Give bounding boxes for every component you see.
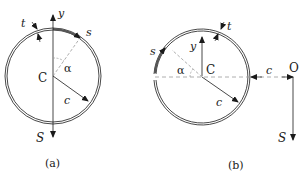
diagram-canvas: t y s α C c S (a) t s y α C xyxy=(0,0,307,180)
label-S: S xyxy=(36,131,44,145)
caption-b: (b) xyxy=(228,159,244,172)
label-C: C xyxy=(206,63,215,77)
thickness-arrow-top xyxy=(221,22,224,29)
label-y: y xyxy=(189,40,197,53)
thickness-arrow-bottom xyxy=(38,34,40,42)
thickness-arrow-top xyxy=(32,22,37,29)
label-O: O xyxy=(289,61,299,75)
label-s: s xyxy=(86,26,92,39)
label-y: y xyxy=(57,7,65,20)
figure-b: t s y α C c c O S (b) xyxy=(150,20,299,172)
label-c: c xyxy=(64,94,70,107)
caption-a: (a) xyxy=(45,157,60,170)
label-alpha: α xyxy=(64,62,72,75)
label-c-offset: c xyxy=(266,64,272,77)
figure-a: t y s α C c S (a) xyxy=(5,7,101,170)
label-alpha: α xyxy=(177,64,185,77)
label-S: S xyxy=(278,131,286,145)
angle-arc xyxy=(190,69,193,77)
label-t: t xyxy=(21,17,26,30)
radius-arrow xyxy=(53,76,88,101)
label-c-radius: c xyxy=(216,96,222,109)
thickness-arrow-bottom xyxy=(215,34,218,41)
label-s: s xyxy=(150,45,156,58)
angle-arc xyxy=(53,58,64,61)
label-t: t xyxy=(227,20,232,33)
label-C: C xyxy=(38,71,47,85)
